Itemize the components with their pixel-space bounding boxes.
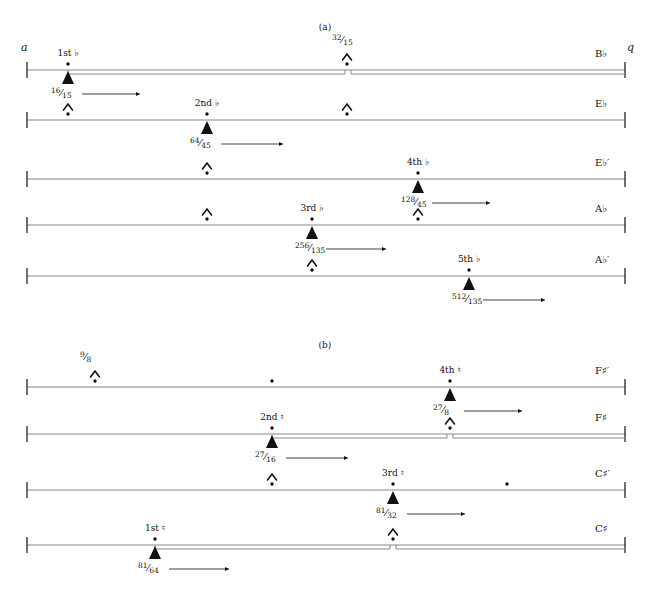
- row-a-4-marker-2-label: 3rd ♭: [282, 203, 342, 213]
- row-a-2-marker-2-label: 2nd ♭: [177, 98, 237, 108]
- row-b-4-marker-1-arrow-head: [225, 567, 229, 571]
- row-a-4-marker-2-triangle: [306, 226, 318, 239]
- row-a-5-marker-2-label: 5th ♭: [439, 254, 499, 264]
- row-a-3-marker-2-label: 4th ♭: [388, 157, 448, 167]
- row-b-3-marker-3-dot: [505, 482, 508, 485]
- axis-start-label: a: [21, 41, 28, 54]
- row-a-2-marker-1-dot: [66, 112, 69, 115]
- row-b-3-marker-2-ratio: 81⁄32: [376, 507, 397, 518]
- row-a-4-marker-3-dot: [416, 217, 419, 220]
- row-a-2-marker-2-dot: [205, 112, 208, 115]
- row-a-2-note-label: E♭: [595, 98, 607, 109]
- row-a-2-marker-3-caret-icon: [343, 104, 352, 110]
- row-b-1-marker-3-arrow-head: [518, 409, 522, 413]
- row-b-3-note-label: C♯′: [595, 468, 610, 479]
- row-a-1-marker-2-ratio: 32⁄15: [332, 34, 353, 45]
- row-b-4-marker-1-dot: [153, 537, 156, 540]
- row-a-1-note-label: B♭: [595, 48, 607, 59]
- row-a-5-marker-1-dot: [310, 268, 313, 271]
- row-a-1-marker-1-arrow-head: [136, 92, 140, 96]
- row-a-3-marker-2-triangle: [412, 180, 424, 193]
- row-b-3-marker-1-dot: [270, 482, 273, 485]
- panel-caption-2: (b): [305, 340, 345, 350]
- row-a-1-marker-1-ratio: 16⁄15: [51, 87, 72, 98]
- row-a-4-note-label: A♭: [595, 203, 607, 214]
- row-b-4-note-label: C♯: [595, 523, 608, 534]
- row-b-2-marker-2-dot: [448, 426, 451, 429]
- row-b-2-marker-1-label: 2nd ♮: [242, 412, 302, 422]
- row-a-5-marker-2-ratio: 512⁄135: [452, 293, 482, 304]
- row-a-4-marker-2-dot: [310, 217, 313, 220]
- row-b-2-marker-1-dot: [270, 426, 273, 429]
- row-b-2-marker-1-ratio: 27⁄16: [255, 451, 276, 462]
- row-a-1-marker-1-label: 1st ♭: [38, 48, 98, 58]
- row-a-2-marker-2-triangle: [201, 121, 213, 134]
- row-a-5-marker-2-triangle: [463, 277, 475, 290]
- row-b-2-marker-1-triangle: [266, 435, 278, 448]
- row-b-1-marker-3-ratio: 27⁄8: [433, 404, 449, 415]
- axis-end-label: q: [627, 41, 634, 54]
- row-a-1-marker-1-dot: [66, 62, 69, 65]
- row-a-4-marker-1-dot: [205, 217, 208, 220]
- row-b-4-marker-1-triangle: [149, 546, 161, 559]
- row-b-3-marker-2-arrow-head: [461, 512, 465, 516]
- row-b-3-marker-1-caret-icon: [268, 474, 277, 480]
- row-a-3-marker-2-ratio: 128⁄45: [401, 196, 427, 207]
- row-b-3-marker-2-dot: [391, 482, 394, 485]
- row-b-1-marker-3-dot: [448, 379, 451, 382]
- row-a-1-marker-2-dot: [345, 62, 348, 65]
- row-b-1-marker-3-label: 4th ♮: [420, 365, 480, 375]
- row-b-2-marker-1-arrow-head: [344, 456, 348, 460]
- row-b-1-marker-3-triangle: [444, 388, 456, 401]
- row-b-3-marker-2-label: 3rd ♮: [363, 468, 423, 478]
- row-a-2-marker-3-dot: [345, 112, 348, 115]
- row-b-2-note-label: F♯: [595, 412, 607, 423]
- row-b-1-marker-2-dot: [270, 379, 273, 382]
- row-a-3-marker-2-arrow-head: [486, 201, 490, 205]
- panel-caption-1: (a): [305, 22, 345, 32]
- row-a-5-marker-1-caret-icon: [308, 260, 317, 266]
- row-a-4-marker-3-caret-icon: [414, 209, 423, 215]
- row-b-4-marker-2-caret-icon: [389, 529, 398, 535]
- row-b-3-marker-2-triangle: [387, 491, 399, 504]
- row-b-1-marker-1-ratio: 9⁄8: [80, 351, 91, 362]
- row-a-2-marker-2-arrow-head: [279, 142, 283, 146]
- row-a-4-marker-2-ratio: 256⁄135: [295, 242, 325, 253]
- figure-canvas: (a)aqB♭1st ♭16⁄1532⁄15E♭2nd ♭64⁄45E♭′4th…: [0, 0, 650, 591]
- row-a-5-marker-2-dot: [467, 268, 470, 271]
- row-a-5-note-label: A♭′: [595, 254, 609, 265]
- row-b-1-note-label: F♯′: [595, 365, 609, 376]
- row-b-2-marker-2-caret-icon: [446, 418, 455, 424]
- row-b-4-marker-2-dot: [391, 537, 394, 540]
- row-a-5-marker-2-arrow-head: [541, 298, 545, 302]
- row-b-1-marker-1-caret-icon: [91, 371, 100, 377]
- row-a-3-marker-1-caret-icon: [203, 163, 212, 169]
- row-a-4-marker-1-caret-icon: [203, 209, 212, 215]
- row-b-1-marker-1-dot: [93, 379, 96, 382]
- row-a-1-marker-1-triangle: [62, 71, 74, 84]
- row-b-4-marker-1-label: 1st ♮: [125, 523, 185, 533]
- figure-svg: [0, 0, 650, 591]
- row-a-4-marker-2-arrow-head: [382, 247, 386, 251]
- row-b-4-marker-1-ratio: 81⁄64: [138, 562, 159, 573]
- row-a-2-marker-2-ratio: 64⁄45: [190, 137, 211, 148]
- row-a-1-marker-2-caret-icon: [343, 54, 352, 60]
- row-a-2-marker-1-caret-icon: [64, 104, 73, 110]
- row-a-3-marker-1-dot: [205, 171, 208, 174]
- row-a-3-marker-2-dot: [416, 171, 419, 174]
- row-a-3-note-label: E♭′: [595, 157, 609, 168]
